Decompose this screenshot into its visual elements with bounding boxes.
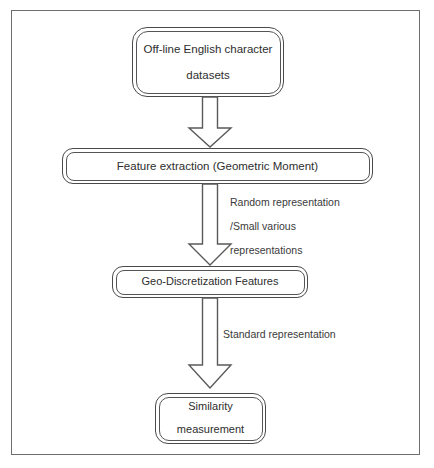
node-geo-discretization-label: Geo-Discretization Features (142, 276, 279, 288)
node-datasets-line-1: Off-line English character (144, 43, 273, 55)
node-inner-border: Feature extraction (Geometric Moment) (66, 152, 370, 181)
arrow-datasets-to-feature-extraction (183, 97, 237, 149)
node-feature-extraction[interactable]: Feature extraction (Geometric Moment) (62, 148, 373, 184)
node-similarity-measurement[interactable]: Similarity measurement (155, 393, 266, 444)
node-feature-extraction-label: Feature extraction (Geometric Moment) (117, 160, 318, 172)
node-inner-border: Geo-Discretization Features (116, 270, 305, 295)
node-geo-discretization-features[interactable]: Geo-Discretization Features (112, 266, 308, 298)
edge-label-random-representation-line-3: representations (230, 245, 302, 256)
node-datasets-line-2: datasets (186, 69, 229, 81)
arrow-geo-discretization-to-similarity (183, 298, 237, 390)
edge-label-random-representation-line-2: /Small various (230, 221, 296, 232)
edge-label-standard-representation: Standard representation (223, 329, 336, 340)
node-inner-border: Off-line English character datasets (136, 31, 281, 94)
node-inner-border: Similarity measurement (159, 397, 263, 441)
arrow-feature-extraction-to-geo-discretization (183, 184, 237, 267)
node-similarity-line-2: measurement (177, 424, 244, 436)
node-offline-english-character-datasets[interactable]: Off-line English character datasets (132, 27, 284, 97)
node-similarity-line-1: Similarity (188, 401, 233, 413)
edge-label-random-representation-line-1: Random representation (230, 197, 340, 208)
diagram-canvas: Off-line English character datasets Feat… (0, 0, 434, 468)
